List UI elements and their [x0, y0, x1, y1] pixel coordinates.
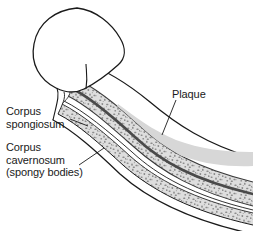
- label-corpus-cavernosum: Corpus cavernosum (spongy bodies): [6, 141, 83, 179]
- label-corpus-spongiosum: Corpus spongiosum: [6, 105, 64, 130]
- label-plaque: Plaque: [172, 88, 206, 101]
- leader-line-plaque: [162, 100, 176, 135]
- glans-shape: [33, 8, 124, 92]
